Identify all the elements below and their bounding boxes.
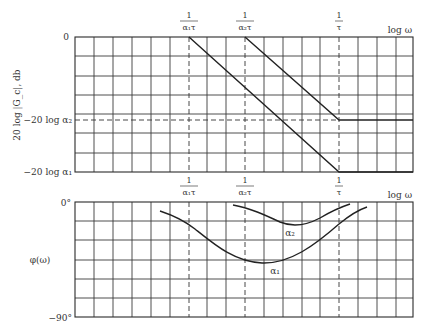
phase-curve-alpha1 — [160, 207, 367, 263]
phase-xlabel: log ω — [388, 190, 412, 200]
svg-text:τ: τ — [337, 23, 342, 32]
svg-text:1: 1 — [186, 176, 191, 185]
phase-marker-label-alpha2-tau: 1 α₂τ — [236, 176, 254, 197]
phase-marker-label-alpha1-tau: 1 α₁τ — [180, 176, 198, 197]
svg-text:τ: τ — [337, 188, 342, 197]
svg-text:1: 1 — [336, 176, 341, 185]
phase-curve-alpha2 — [233, 204, 350, 225]
ytick-alpha1: −20 log α₁ — [24, 167, 72, 177]
phase-ylabel: φ(ω) — [30, 255, 51, 265]
marker-label-tau: 1 τ — [335, 11, 343, 32]
svg-text:α₂τ: α₂τ — [238, 23, 252, 32]
svg-text:α₂τ: α₂τ — [238, 188, 252, 197]
bode-diagram: 0 −20 log α₂ −20 log α₁ 20 log |G_c|, db… — [0, 0, 425, 330]
svg-text:α₁τ: α₁τ — [182, 188, 196, 197]
magnitude-curve-alpha2 — [245, 37, 413, 120]
marker-label-alpha2-tau: 1 α₂τ — [236, 11, 254, 32]
magnitude-xlabel: log ω — [388, 25, 412, 35]
svg-text:1: 1 — [242, 176, 247, 185]
ytick-zero: 0 — [63, 32, 69, 42]
svg-text:1: 1 — [186, 11, 191, 20]
magnitude-ylabel: 20 log |G_c|, db — [12, 69, 23, 141]
svg-text:1: 1 — [242, 11, 247, 20]
ytick-alpha2: −20 log α₂ — [24, 115, 73, 125]
magnitude-grid — [75, 37, 413, 172]
curve-label-alpha2: α₂ — [285, 228, 295, 238]
magnitude-curve-alpha1 — [189, 37, 413, 172]
marker-label-alpha1-tau: 1 α₁τ — [180, 11, 198, 32]
curve-label-alpha1: α₁ — [270, 266, 280, 276]
svg-text:1: 1 — [336, 11, 341, 20]
phase-marker-label-tau: 1 τ — [335, 176, 343, 197]
magnitude-frame — [75, 37, 413, 172]
ytick-zero-deg: 0° — [61, 198, 71, 208]
ytick-minus90-deg: −90° — [49, 313, 73, 323]
svg-text:α₁τ: α₁τ — [182, 23, 196, 32]
